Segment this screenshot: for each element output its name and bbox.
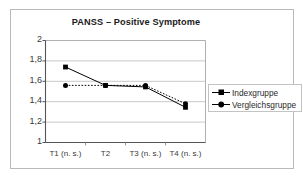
chart-legend: Indexgruppe Vergleichsgruppe — [208, 84, 302, 112]
data-point-marker — [63, 83, 68, 88]
series-line-vergleichsgruppe — [66, 85, 186, 103]
data-series-layer — [63, 65, 188, 110]
legend-label-indexgruppe: Indexgruppe — [232, 88, 278, 98]
data-point-marker — [103, 83, 108, 88]
y-tick-label: 2 — [16, 34, 42, 44]
data-point-marker — [183, 101, 188, 106]
gridlines — [46, 41, 206, 143]
x-tick-label: T1 (n. s.) — [44, 149, 88, 158]
axis-lines — [46, 41, 206, 143]
legend-label-vergleichsgruppe: Vergleichsgruppe — [232, 100, 296, 110]
chart-figure: PANSS – Positive Symptome 11,21,41,61,82… — [0, 0, 303, 185]
data-point-marker — [143, 83, 148, 88]
legend-marker-square-icon — [212, 87, 230, 98]
y-tick-label: 1,2 — [16, 116, 42, 126]
x-tick-label: T4 (n. s.) — [164, 149, 208, 158]
y-tick-label: 1,8 — [16, 54, 42, 64]
legend-marker-circle-icon — [212, 99, 230, 110]
legend-item-vergleichsgruppe: Vergleichsgruppe — [212, 98, 296, 111]
y-tick-label: 1 — [16, 136, 42, 146]
data-point-marker — [63, 65, 68, 70]
x-tick-label: T3 (n. s.) — [124, 149, 168, 158]
y-tick-label: 1,4 — [16, 95, 42, 105]
y-tick-label: 1,6 — [16, 75, 42, 85]
x-tick-label: T2 — [84, 149, 128, 158]
